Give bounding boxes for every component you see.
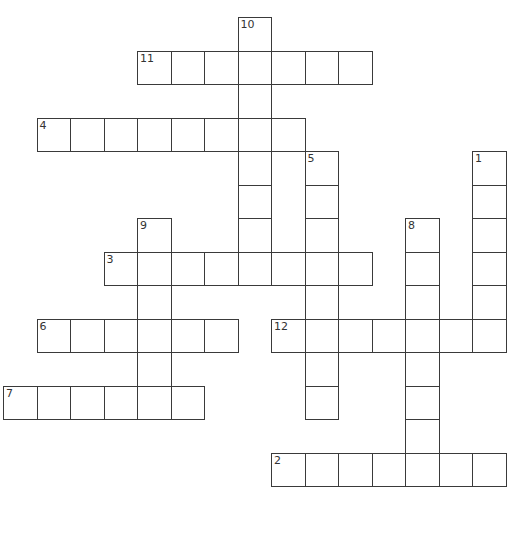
- crossword-cell[interactable]: 12: [271, 319, 306, 354]
- clue-number: 6: [40, 321, 47, 332]
- clue-number: 1: [475, 153, 482, 164]
- clue-number: 11: [140, 53, 154, 64]
- crossword-cell[interactable]: [204, 118, 239, 153]
- crossword-cell[interactable]: [137, 319, 172, 354]
- crossword-cell[interactable]: 7: [3, 386, 38, 421]
- crossword-cell[interactable]: [70, 118, 105, 153]
- crossword-cell[interactable]: [204, 252, 239, 287]
- crossword-cell[interactable]: [137, 285, 172, 320]
- crossword-cell[interactable]: [238, 252, 273, 287]
- crossword-cell[interactable]: [305, 218, 340, 253]
- crossword-cell[interactable]: [104, 319, 139, 354]
- clue-number: 5: [308, 153, 315, 164]
- crossword-cell[interactable]: [70, 386, 105, 421]
- crossword-cell[interactable]: [104, 118, 139, 153]
- crossword-cell[interactable]: [472, 218, 507, 253]
- crossword-cell[interactable]: 5: [305, 151, 340, 186]
- crossword-cell[interactable]: [171, 51, 206, 86]
- crossword-cell[interactable]: 10: [238, 17, 273, 52]
- crossword-cell[interactable]: [472, 285, 507, 320]
- crossword-cell[interactable]: 4: [37, 118, 72, 153]
- crossword-cell[interactable]: [238, 185, 273, 220]
- crossword-cell[interactable]: [137, 252, 172, 287]
- crossword-cell[interactable]: [305, 185, 340, 220]
- crossword-cell[interactable]: [472, 185, 507, 220]
- crossword-cell[interactable]: [37, 386, 72, 421]
- crossword-cell[interactable]: [238, 84, 273, 119]
- crossword-cell[interactable]: [372, 453, 407, 488]
- crossword-cell[interactable]: [472, 319, 507, 354]
- crossword-cell[interactable]: [204, 319, 239, 354]
- crossword-cell[interactable]: [238, 218, 273, 253]
- crossword-cell[interactable]: [104, 386, 139, 421]
- crossword-cell[interactable]: [137, 386, 172, 421]
- crossword-cell[interactable]: [439, 453, 474, 488]
- clue-number: 2: [274, 455, 281, 466]
- crossword-cell[interactable]: [137, 352, 172, 387]
- crossword-cell[interactable]: [137, 118, 172, 153]
- crossword-cell[interactable]: [238, 118, 273, 153]
- clue-number: 3: [107, 254, 114, 265]
- crossword-cell[interactable]: [439, 319, 474, 354]
- clue-number: 7: [6, 388, 13, 399]
- crossword-cell[interactable]: [238, 51, 273, 86]
- crossword-cell[interactable]: [171, 386, 206, 421]
- crossword-cell[interactable]: [338, 51, 373, 86]
- crossword-cell[interactable]: [305, 319, 340, 354]
- crossword-cell[interactable]: [405, 319, 440, 354]
- crossword-cell[interactable]: [171, 252, 206, 287]
- crossword-cell[interactable]: [238, 151, 273, 186]
- crossword-cell[interactable]: [405, 352, 440, 387]
- crossword-cell[interactable]: [70, 319, 105, 354]
- crossword-cell[interactable]: [305, 453, 340, 488]
- crossword-cell[interactable]: 6: [37, 319, 72, 354]
- crossword-cell[interactable]: [405, 386, 440, 421]
- crossword-cell[interactable]: [405, 453, 440, 488]
- crossword-cell[interactable]: [338, 319, 373, 354]
- crossword-cell[interactable]: [305, 386, 340, 421]
- crossword-cell[interactable]: 9: [137, 218, 172, 253]
- crossword-cell[interactable]: [338, 453, 373, 488]
- crossword-cell[interactable]: [472, 453, 507, 488]
- crossword-cell[interactable]: [338, 252, 373, 287]
- crossword-cell[interactable]: [305, 285, 340, 320]
- clue-number: 8: [408, 220, 415, 231]
- crossword-cell[interactable]: [405, 285, 440, 320]
- clue-number: 4: [40, 120, 47, 131]
- crossword-cell[interactable]: [305, 352, 340, 387]
- crossword-cell[interactable]: [271, 51, 306, 86]
- crossword-cell[interactable]: [405, 419, 440, 454]
- crossword-cell[interactable]: [271, 252, 306, 287]
- crossword-cell[interactable]: [204, 51, 239, 86]
- clue-number: 10: [241, 19, 255, 30]
- crossword-cell[interactable]: 3: [104, 252, 139, 287]
- crossword-cell[interactable]: [305, 252, 340, 287]
- crossword-cell[interactable]: [305, 51, 340, 86]
- crossword-grid: 123456789101112: [0, 0, 514, 543]
- crossword-cell[interactable]: 1: [472, 151, 507, 186]
- crossword-cell[interactable]: [171, 118, 206, 153]
- crossword-cell[interactable]: [171, 319, 206, 354]
- crossword-cell[interactable]: 8: [405, 218, 440, 253]
- clue-number: 9: [140, 220, 147, 231]
- crossword-cell[interactable]: 2: [271, 453, 306, 488]
- crossword-cell[interactable]: [271, 118, 306, 153]
- crossword-cell[interactable]: [472, 252, 507, 287]
- crossword-cell[interactable]: [405, 252, 440, 287]
- crossword-cell[interactable]: [372, 319, 407, 354]
- crossword-cell[interactable]: 11: [137, 51, 172, 86]
- clue-number: 12: [274, 321, 288, 332]
